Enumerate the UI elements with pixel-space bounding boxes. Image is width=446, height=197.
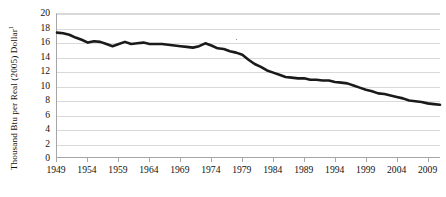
plot-area bbox=[56, 13, 440, 158]
x-axis-tick-mark bbox=[56, 158, 57, 162]
series-energy-intensity bbox=[57, 14, 440, 157]
x-axis-tick-label: 1969 bbox=[170, 164, 189, 175]
x-axis-tick-label: 1974 bbox=[201, 164, 220, 175]
x-axis-tick-labels: 1949195419591964196919741979198419891994… bbox=[56, 158, 440, 188]
x-axis-tick-label: 1959 bbox=[108, 164, 127, 175]
y-axis-tick-label: 6 bbox=[45, 110, 50, 120]
y-axis-tick-label: 0 bbox=[45, 153, 50, 163]
energy-intensity-line-chart: Thousand Btu per Real (2005) Dollar1 201… bbox=[0, 0, 446, 197]
y-axis-tick-label: 4 bbox=[45, 124, 50, 134]
x-axis-tick-mark bbox=[366, 158, 367, 162]
x-axis-tick-mark bbox=[118, 158, 119, 162]
x-axis-tick-label: 2004 bbox=[387, 164, 406, 175]
x-axis-tick-label: 1994 bbox=[325, 164, 344, 175]
x-axis-tick-mark bbox=[242, 158, 243, 162]
x-axis-tick-mark bbox=[211, 158, 212, 162]
x-axis-tick-mark bbox=[335, 158, 336, 162]
x-axis-tick-mark bbox=[428, 158, 429, 162]
x-axis-tick-label: 1989 bbox=[294, 164, 313, 175]
y-axis-tick-label: 20 bbox=[40, 8, 50, 18]
x-axis-tick-mark bbox=[273, 158, 274, 162]
y-axis-title: Thousand Btu per Real (2005) Dollar1 bbox=[0, 0, 26, 197]
x-axis-tick-mark bbox=[149, 158, 150, 162]
y-axis-tick-label: 12 bbox=[40, 66, 50, 76]
x-axis-tick-label: 1984 bbox=[263, 164, 282, 175]
x-axis-tick-label: 1964 bbox=[139, 164, 158, 175]
image-speck bbox=[236, 39, 237, 40]
x-axis-tick-mark bbox=[397, 158, 398, 162]
x-axis-tick-label: 2009 bbox=[418, 164, 437, 175]
y-axis-title-footnote: 1 bbox=[7, 26, 14, 29]
x-axis-tick-mark bbox=[87, 158, 88, 162]
y-axis-title-text: Thousand Btu per Real (2005) Dollar bbox=[9, 30, 19, 171]
x-axis-tick-mark bbox=[180, 158, 181, 162]
y-axis-tick-label: 8 bbox=[45, 95, 50, 105]
y-axis-tick-label: 16 bbox=[40, 37, 50, 47]
y-axis-tick-label: 18 bbox=[40, 23, 50, 33]
x-axis-tick-label: 1999 bbox=[356, 164, 375, 175]
x-axis-tick-label: 1949 bbox=[46, 164, 65, 175]
y-axis-tick-label: 10 bbox=[40, 81, 50, 91]
x-axis-tick-label: 1979 bbox=[232, 164, 251, 175]
y-axis-tick-label: 2 bbox=[45, 139, 50, 149]
y-axis-tick-label: 14 bbox=[40, 52, 50, 62]
x-axis-tick-mark bbox=[304, 158, 305, 162]
x-axis-tick-label: 1954 bbox=[77, 164, 96, 175]
